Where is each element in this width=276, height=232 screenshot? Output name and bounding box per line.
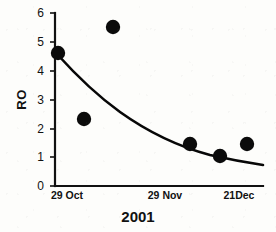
data-point: [213, 149, 227, 163]
x-tick-label-29-oct: 29 Oct: [36, 190, 98, 201]
y-tick-label-2: 2: [28, 123, 44, 135]
data-point: [51, 46, 65, 60]
data-point: [183, 137, 197, 151]
x-axis-title: 2001: [0, 208, 276, 225]
x-tick-label-29-nov: 29 Nov: [134, 190, 196, 201]
y-tick-label-1: 1: [28, 151, 44, 163]
data-points: [51, 20, 254, 163]
scatter-chart-figure: 0 1 2 3 4 5 6 29 Oct 29 Nov 21Dec RO 200…: [0, 0, 276, 232]
data-point: [240, 137, 254, 151]
y-tick-label-4: 4: [28, 65, 44, 77]
x-tick-label-21-dec: 21Dec: [208, 190, 270, 201]
y-tick-label-6: 6: [28, 7, 44, 19]
data-point: [106, 20, 120, 34]
y-axis-title: RO: [14, 70, 29, 130]
data-point: [77, 112, 91, 126]
y-tick-label-3: 3: [28, 94, 44, 106]
fit-curve: [57, 54, 263, 165]
y-tick-label-5: 5: [28, 36, 44, 48]
